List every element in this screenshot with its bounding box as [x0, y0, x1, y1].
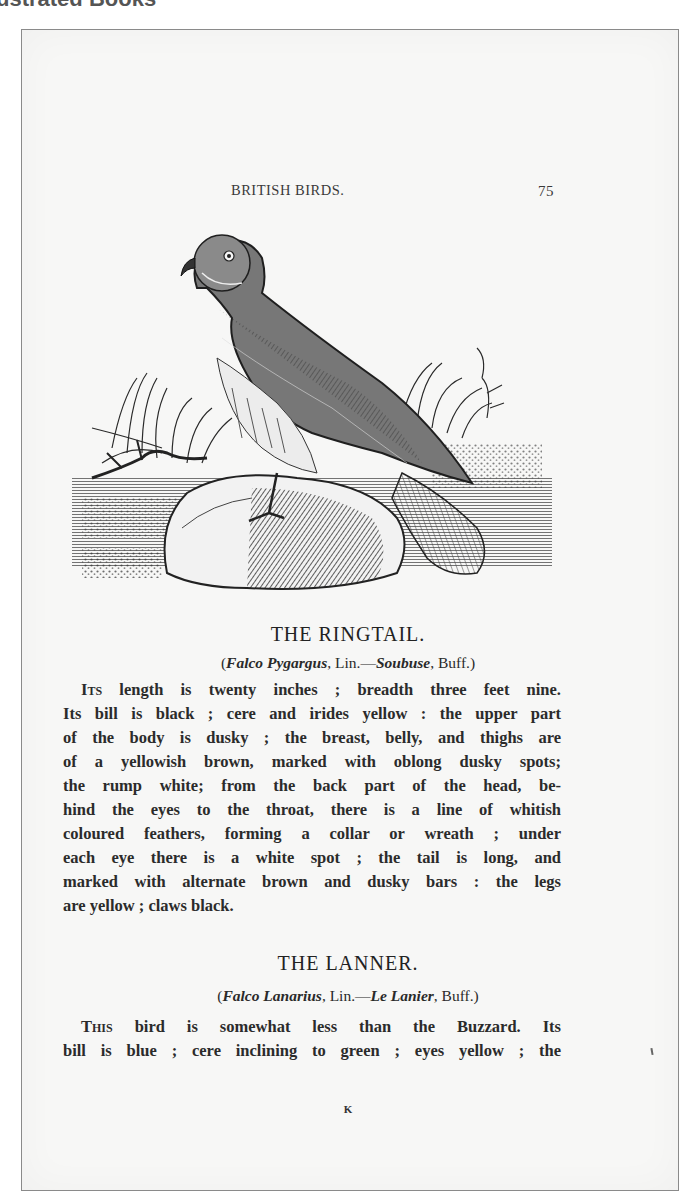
text-line: bill is blue ; cere inclining to green ;…	[63, 1039, 561, 1063]
section-heading-lanner: THE LANNER.	[0, 952, 696, 975]
french-name: Soubuse	[376, 654, 430, 671]
french-name: Le Lanier	[371, 987, 434, 1004]
synonymy-lanner: (Falco Lanarius, Lin.—Le Lanier, Buff.)	[0, 987, 696, 1005]
section-heading-ringtail: THE RINGTAIL.	[0, 623, 696, 646]
latin-name: Falco Lanarius	[222, 987, 321, 1004]
text-line: of a yellowish brown, marked with oblong…	[63, 750, 561, 774]
text-line: marked with alternate brown and dusky ba…	[63, 870, 561, 894]
collection-caption: ustrated Books	[0, 0, 156, 12]
text-line: of the body is dusky ; the breast, belly…	[63, 726, 561, 750]
text-line: are yellow ; claws black.	[63, 894, 561, 918]
ringtail-description: Its length is twenty inches ; breadth th…	[63, 678, 561, 918]
text-line: the rump white; from the back part of th…	[63, 774, 561, 798]
latin-name: Falco Pygargus	[226, 654, 327, 671]
text-line: hind the eyes to the throat, there is a …	[63, 798, 561, 822]
synonymy-ringtail: (Falco Pygargus, Lin.—Soubuse, Buff.)	[0, 654, 696, 672]
page-number: 75	[538, 183, 554, 200]
lanner-description: This bird is somewhat less than the Buzz…	[63, 1015, 561, 1063]
text-line: Its length is twenty inches ; breadth th…	[63, 678, 561, 702]
text-line: Its bill is black ; cere and irides yell…	[63, 702, 561, 726]
text-line: This bird is somewhat less than the Buzz…	[63, 1015, 561, 1039]
text-line: coloured feathers, forming a collar or w…	[63, 822, 561, 846]
ringtail-engraving-illustration	[72, 228, 552, 606]
text-line: each eye there is a white spot ; the tai…	[63, 846, 561, 870]
signature-mark: K	[0, 1103, 696, 1115]
running-title: BRITISH BIRDS.	[231, 182, 344, 199]
